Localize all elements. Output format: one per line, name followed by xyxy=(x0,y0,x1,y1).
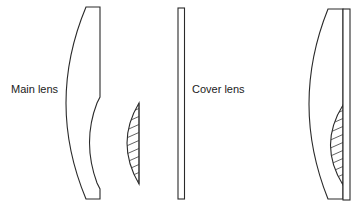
assembled-lens xyxy=(309,9,350,200)
cover-lens-label: Cover lens xyxy=(192,84,245,95)
main-lens-label: Main lens xyxy=(11,84,58,95)
cover-lens-plate xyxy=(178,8,185,199)
assembled-cover-plate xyxy=(343,9,350,200)
main-lens xyxy=(66,7,100,199)
main-lens-outline xyxy=(66,7,100,199)
cover-lens xyxy=(178,8,185,199)
lens-diagram xyxy=(0,0,361,206)
corrector-element xyxy=(122,100,140,196)
hatch-line xyxy=(122,188,140,196)
